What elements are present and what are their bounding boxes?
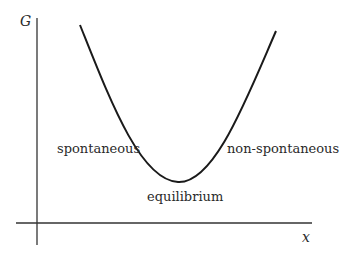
x-axis-label: x xyxy=(302,230,310,244)
non-spontaneous-label: non-spontaneous xyxy=(227,142,339,155)
gibbs-energy-diagram: G x spontaneous non-spontaneous equilibr… xyxy=(0,0,343,255)
gibbs-curve xyxy=(80,25,276,182)
equilibrium-label: equilibrium xyxy=(147,190,223,203)
spontaneous-label: spontaneous xyxy=(57,142,140,155)
y-axis-label: G xyxy=(20,14,31,28)
diagram-canvas xyxy=(0,0,343,255)
